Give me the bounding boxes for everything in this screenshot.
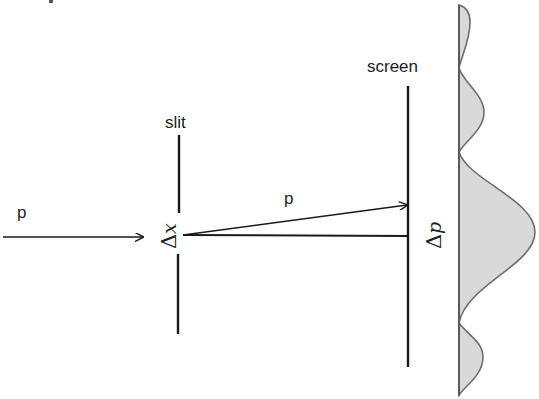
- momentum-spread-label: Δ p: [422, 222, 446, 249]
- diffraction-diagram: p slit Δ x p screen Δ p: [0, 0, 539, 399]
- intensity-profile-fill: [459, 5, 535, 395]
- screen-label: screen: [367, 57, 418, 76]
- slit: slit Δ x: [157, 113, 186, 334]
- diffracted-momentum-label: p: [284, 189, 293, 208]
- intensity-profile: [459, 5, 535, 396]
- screen: screen Δ p: [367, 57, 446, 367]
- cropped-artifact: [49, 0, 53, 3]
- delta-symbol: Δ: [157, 234, 181, 249]
- slit-width-label: Δ x: [157, 223, 181, 249]
- slit-label: slit: [165, 113, 186, 132]
- delta-symbol: Δ: [422, 234, 446, 249]
- diffracted-rays: p: [183, 189, 408, 236]
- incoming-momentum-label: p: [17, 203, 26, 222]
- incoming-beam: p: [3, 203, 143, 237]
- x-variable: x: [158, 223, 180, 234]
- deflected-ray-arrow: [183, 205, 407, 235]
- straight-ray: [183, 235, 408, 236]
- p-variable: p: [423, 222, 445, 234]
